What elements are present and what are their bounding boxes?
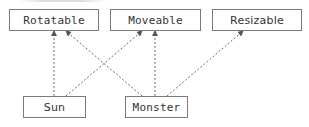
- node-moveable: Moveable: [110, 9, 201, 31]
- node-label: Rotatable: [23, 14, 84, 27]
- node-label: Resizable: [230, 14, 284, 27]
- edge-monster-resizable: [167, 31, 243, 96]
- node-sun: Sun: [23, 96, 86, 118]
- node-monster: Monster: [125, 96, 188, 118]
- node-rotatable: Rotatable: [9, 9, 99, 31]
- node-resizable: Resizable: [212, 9, 302, 31]
- diagram-canvas: Rotatable Moveable Resizable Sun Monster: [0, 0, 309, 127]
- node-label: Monster: [133, 101, 181, 114]
- node-label: Moveable: [128, 14, 183, 27]
- node-label: Sun: [44, 101, 66, 114]
